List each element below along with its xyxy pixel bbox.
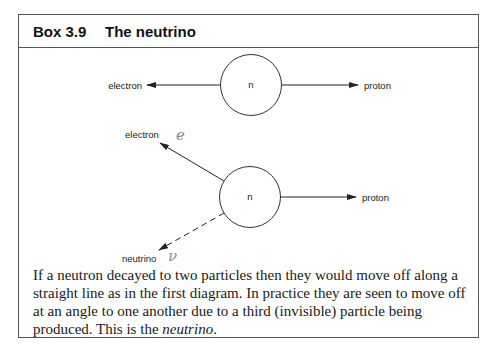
caption-emphasis: neutrino — [162, 321, 213, 337]
proton-label: proton — [364, 80, 391, 91]
caption-text: If a neutron decayed to two particles th… — [33, 266, 473, 338]
neutrino-arrow — [159, 213, 224, 250]
neutron-label: n — [247, 191, 252, 202]
three-body-decay-diagram: n electron e neutrino ν proton — [122, 126, 389, 265]
electron-label: electron — [125, 129, 159, 140]
caption-end: . — [213, 321, 217, 337]
electron-arrow — [160, 143, 224, 181]
proton-label: proton — [362, 192, 389, 203]
neutron-label: n — [248, 79, 253, 90]
electron-label: electron — [108, 80, 142, 91]
neutrino-label: neutrino — [122, 253, 156, 264]
caption-body: If a neutron decayed to two particles th… — [33, 267, 466, 337]
handwritten-e-annotation: e — [176, 126, 185, 144]
two-body-decay-diagram: n electron proton — [108, 55, 391, 116]
handwritten-nu-annotation: ν — [168, 247, 177, 265]
